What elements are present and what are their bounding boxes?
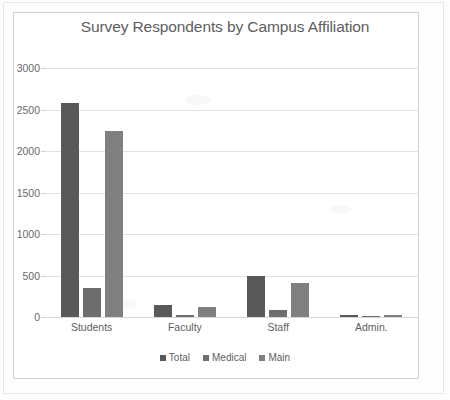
y-tick-label-1000: 1000 — [0, 228, 40, 240]
x-tick-label-students: Students — [71, 321, 112, 333]
bar-main-students[interactable] — [105, 131, 123, 317]
y-tick-mark-1500 — [41, 193, 45, 194]
bar-total-faculty[interactable] — [154, 305, 172, 317]
x-tick-label-faculty: Faculty — [168, 321, 202, 333]
y-tick-mark-2500 — [41, 110, 45, 111]
y-tick-label-500: 500 — [0, 270, 40, 282]
y-tick-label-0: 0 — [0, 311, 40, 323]
bar-group-staff — [247, 68, 309, 317]
bar-total-admin[interactable] — [340, 315, 358, 317]
chart-legend: TotalMedicalMain — [0, 352, 450, 363]
y-tick-mark-3000 — [41, 68, 45, 69]
x-axis-category-labels: StudentsFacultyStaffAdmin. — [45, 321, 418, 339]
x-tick-label-admin: Admin. — [355, 321, 388, 333]
chart-page: Survey Respondents by Campus Affiliation… — [0, 0, 450, 400]
bar-total-students[interactable] — [61, 103, 79, 317]
legend-item-medical[interactable]: Medical — [203, 352, 246, 363]
legend-swatch-icon-total — [160, 355, 166, 361]
y-axis-labels: 050010001500200025003000 — [0, 68, 40, 317]
bar-group-admin — [340, 68, 402, 317]
bar-total-staff[interactable] — [247, 276, 265, 317]
legend-swatch-icon-main — [259, 355, 265, 361]
y-tick-mark-500 — [41, 276, 45, 277]
legend-item-total[interactable]: Total — [160, 352, 190, 363]
y-tick-label-2500: 2500 — [0, 104, 40, 116]
bar-medical-admin[interactable] — [362, 316, 380, 318]
bar-group-faculty — [154, 68, 216, 317]
legend-item-main[interactable]: Main — [259, 352, 290, 363]
y-tick-label-2000: 2000 — [0, 145, 40, 157]
gridline-0 — [45, 317, 418, 318]
bar-main-admin[interactable] — [384, 315, 402, 317]
bar-series-container — [45, 68, 418, 317]
legend-label-total: Total — [169, 352, 190, 363]
chart-title: Survey Respondents by Campus Affiliation — [0, 18, 450, 36]
legend-swatch-icon-medical — [203, 355, 209, 361]
y-tick-mark-0 — [41, 317, 45, 318]
y-tick-label-3000: 3000 — [0, 62, 40, 74]
bar-main-staff[interactable] — [291, 283, 309, 317]
bar-group-students — [61, 68, 123, 317]
bar-medical-staff[interactable] — [269, 310, 287, 317]
plot-area — [45, 68, 418, 317]
legend-label-medical: Medical — [212, 352, 246, 363]
y-tick-mark-2000 — [41, 151, 45, 152]
y-tick-label-1500: 1500 — [0, 187, 40, 199]
legend-label-main: Main — [268, 352, 290, 363]
bar-medical-students[interactable] — [83, 288, 101, 317]
x-tick-label-staff: Staff — [267, 321, 288, 333]
bar-main-faculty[interactable] — [198, 307, 216, 317]
y-tick-mark-1000 — [41, 234, 45, 235]
bar-medical-faculty[interactable] — [176, 315, 194, 317]
